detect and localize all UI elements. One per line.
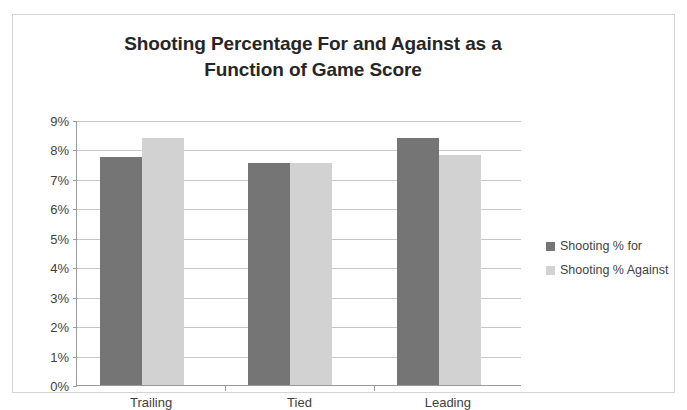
y-axis-label: 9% <box>50 114 69 129</box>
y-axis-tick <box>73 180 77 181</box>
x-axis-tick <box>225 385 226 391</box>
y-axis-label: 5% <box>50 231 69 246</box>
legend-swatch-icon <box>546 242 555 251</box>
chart-title: Shooting Percentage For and Against as a… <box>53 31 573 83</box>
chart-frame: Shooting Percentage For and Against as a… <box>12 14 675 393</box>
y-axis-tick <box>73 268 77 269</box>
y-axis-label: 8% <box>50 143 69 158</box>
chart-title-line-1: Shooting Percentage For and Against as a <box>53 31 573 57</box>
y-axis-tick <box>73 150 77 151</box>
y-axis-tick <box>73 357 77 358</box>
bar-tied-for <box>248 163 290 385</box>
x-axis-tick <box>374 385 375 391</box>
legend-label: Shooting % Against <box>560 263 668 277</box>
y-gridline <box>77 121 521 122</box>
x-axis-label-leading: Leading <box>425 395 471 410</box>
x-axis-label-trailing: Trailing <box>130 395 172 410</box>
bar-trailing-against <box>142 138 184 385</box>
y-axis-label: 2% <box>50 320 69 335</box>
y-axis-tick <box>73 386 77 387</box>
bar-trailing-for <box>100 157 142 385</box>
y-axis-tick <box>73 121 77 122</box>
chart-title-line-2: Function of Game Score <box>53 57 573 83</box>
y-axis-tick <box>73 209 77 210</box>
y-axis-label: 6% <box>50 202 69 217</box>
legend-item-for[interactable]: Shooting % for <box>546 234 686 258</box>
bar-leading-for <box>397 138 439 385</box>
legend-label: Shooting % for <box>560 239 642 253</box>
chart-legend: Shooting % forShooting % Against <box>546 234 686 282</box>
y-axis-label: 7% <box>50 172 69 187</box>
y-axis-label: 1% <box>50 349 69 364</box>
plot-area: 0%1%2%3%4%5%6%7%8%9%TrailingTiedLeading <box>76 121 521 386</box>
legend-item-against[interactable]: Shooting % Against <box>546 258 686 282</box>
y-axis-tick <box>73 239 77 240</box>
legend-swatch-icon <box>546 266 555 275</box>
bar-tied-against <box>290 163 332 385</box>
y-axis-label: 3% <box>50 290 69 305</box>
y-axis-tick <box>73 298 77 299</box>
bar-leading-against <box>439 155 481 385</box>
x-axis-label-tied: Tied <box>287 395 312 410</box>
y-axis-label: 0% <box>50 379 69 394</box>
y-axis-tick <box>73 327 77 328</box>
y-axis-label: 4% <box>50 261 69 276</box>
